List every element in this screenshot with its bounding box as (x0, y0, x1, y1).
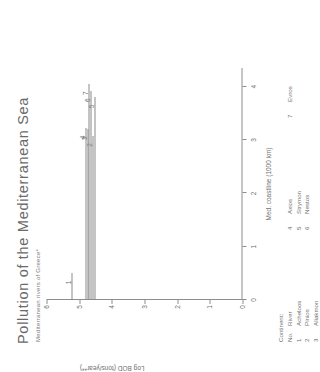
legend-column-2: 4Axios5Strymon6Nestos (285, 191, 311, 230)
legend-item-river: Pinios (302, 309, 311, 326)
x-tick (242, 192, 246, 193)
x-tick (242, 299, 246, 300)
y-tick (209, 300, 210, 304)
x-tick-label: 2 (249, 186, 256, 200)
y-tick-label: 3 (140, 305, 147, 317)
legend-item-number: 3 (311, 333, 320, 342)
y-tick (177, 300, 178, 304)
bar-nestos (90, 91, 91, 300)
legend-continent-header: Continent: (276, 314, 283, 342)
bar-label-1: 1 (64, 281, 71, 285)
x-tick (242, 139, 246, 140)
bar-label-7: 7 (81, 91, 88, 95)
x-tick (242, 86, 246, 87)
y-tick (46, 300, 47, 304)
legend-item-river: Acheloos (294, 301, 303, 326)
legend-item-nestos: 6Nestos (302, 191, 311, 230)
chart-figure: Pollution of the Mediterranean Sea Medit… (0, 0, 311, 366)
y-tick (242, 300, 243, 304)
x-tick-label: 3 (249, 133, 256, 147)
legend-item-number: 5 (294, 221, 303, 230)
legend-header-row: No.River (285, 301, 294, 342)
x-tick-label: 1 (249, 240, 256, 254)
bar-label-4: 4 (78, 136, 85, 140)
y-tick (111, 300, 112, 304)
legend-river-header: River (285, 312, 294, 326)
legend-item-aliakmon: 3Aliakmon (311, 301, 320, 342)
y-tick (79, 300, 80, 304)
y-tick-label: 5 (75, 305, 82, 317)
legend-item-axios: 4Axios (285, 191, 294, 230)
legend-item-number: 1 (294, 333, 303, 342)
legend-item-number: 7 (285, 109, 294, 118)
legend-item-river: Evros (285, 86, 294, 102)
y-tick-label: 6 (42, 305, 49, 317)
bar-evros (88, 84, 89, 300)
legend-item-strymon: 5Strymon (294, 191, 303, 230)
legend-item-number: 2 (302, 333, 311, 342)
legend-item-number: 4 (285, 221, 294, 230)
legend-item-acheloos: 1Acheloos (294, 301, 303, 342)
legend-column-3: 7Evros (285, 86, 294, 118)
plot-area: 0123456 01234 1234567 (46, 68, 242, 300)
x-tick-label: 0 (249, 293, 256, 307)
legend-item-pinios: 2Pinios (302, 301, 311, 342)
y-tick (144, 300, 145, 304)
legend-column-1: No.River1Acheloos2Pinios3Aliakmon (285, 301, 319, 342)
chart-title: Pollution of the Mediterranean Sea (14, 97, 30, 344)
legend-item-river: Axios (285, 199, 294, 214)
y-tick-label: 1 (205, 305, 212, 317)
legend-item-number: 6 (302, 221, 311, 230)
legend-item-evros: 7Evros (285, 86, 294, 118)
bar-axios (85, 128, 86, 300)
legend-no-header: No. (285, 333, 294, 342)
x-tick (242, 246, 246, 247)
bar-strymon (94, 97, 95, 300)
chart-subtitle: Mediterranean rivers of Greece* (34, 249, 40, 342)
legend-item-river: Aliakmon (311, 301, 320, 326)
x-axis-title: Med. coastline (1000 km) (264, 68, 271, 300)
y-tick-label: 2 (173, 305, 180, 317)
legend-item-river: Strymon (294, 191, 303, 214)
y-tick-label: 0 (238, 305, 245, 317)
x-tick-label: 4 (249, 80, 256, 94)
legend-item-river: Nestos (302, 195, 311, 214)
y-axis-title: Log BOD (tons/year**) (79, 365, 144, 372)
bar-acheloos (71, 273, 72, 300)
x-axis-line (241, 68, 242, 300)
y-tick-label: 4 (107, 305, 114, 317)
